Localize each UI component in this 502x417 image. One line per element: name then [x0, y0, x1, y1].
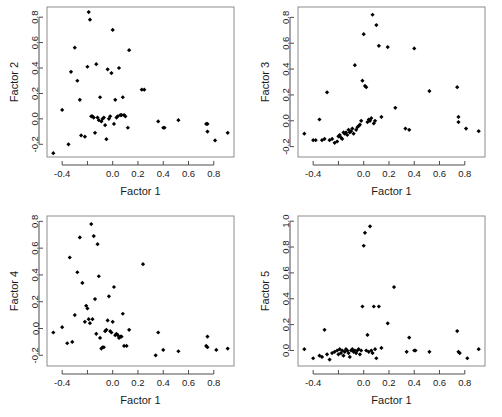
plot-factor2: -0.20.00.20.40.60.8-0.40.00.20.40.60.8Fa…: [0, 0, 251, 208]
x-axis-title: Factor 1: [371, 394, 411, 406]
panel-factor5: 0.00.20.40.60.81.0-0.40.00.20.40.60.8Fac…: [251, 209, 502, 417]
x-tick-label: 0.8: [458, 377, 471, 388]
x-tick-label: 0.8: [207, 377, 220, 388]
y-axis-title: Factor 2: [8, 62, 20, 102]
y-tick-label: 0.0: [281, 344, 292, 357]
y-tick-label: 0.0: [281, 114, 292, 127]
plot-area-factor3: -0.20.00.20.40.60.8-0.40.00.20.40.60.8Fa…: [259, 7, 485, 197]
plot-factor5: 0.00.20.40.60.81.0-0.40.00.20.40.60.8Fac…: [251, 209, 502, 417]
x-tick-label: 0.8: [458, 168, 471, 179]
y-tick-label: 0.4: [281, 292, 292, 305]
y-tick-label: -0.2: [30, 347, 41, 363]
x-tick-label: 0.4: [408, 377, 421, 388]
y-tick-label: 0.6: [281, 37, 292, 50]
x-tick-label: 0.6: [433, 168, 446, 179]
panel-factor2: -0.20.00.20.40.60.8-0.40.00.20.40.60.8Fa…: [0, 0, 251, 208]
x-tick-label: 0.2: [382, 168, 395, 179]
x-tick-label: 0.0: [106, 168, 119, 179]
x-tick-label: 0.2: [382, 377, 395, 388]
x-tick-label: 0.8: [207, 168, 220, 179]
y-axis-title: Factor 5: [259, 271, 271, 311]
x-tick-label: -0.4: [305, 168, 321, 179]
y-tick-label: 0.0: [30, 112, 41, 125]
x-tick-label: -0.4: [54, 168, 70, 179]
x-tick-label: 0.6: [182, 168, 195, 179]
x-tick-label: 0.0: [357, 168, 370, 179]
y-tick-label: 0.4: [281, 62, 292, 75]
x-axis-title: Factor 1: [371, 185, 411, 197]
x-tick-label: 0.6: [433, 377, 446, 388]
x-tick-label: -0.4: [305, 377, 321, 388]
y-tick-label: 0.6: [30, 36, 41, 49]
x-tick-label: 0.0: [357, 377, 370, 388]
y-tick-label: 0.6: [30, 242, 41, 255]
x-axis-title: Factor 1: [120, 185, 160, 197]
y-tick-label: 0.0: [30, 322, 41, 335]
plot-frame: [47, 7, 234, 157]
x-tick-label: -0.4: [54, 377, 70, 388]
plot-factor3: -0.20.00.20.40.60.8-0.40.00.20.40.60.8Fa…: [251, 0, 502, 208]
plot-area-factor4: -0.20.00.20.40.60.8-0.40.00.20.40.60.8Fa…: [8, 215, 234, 406]
y-tick-label: 0.8: [281, 240, 292, 253]
y-tick-label: 0.2: [281, 318, 292, 331]
y-tick-label: 1.0: [281, 215, 292, 228]
y-tick-label: 0.6: [281, 266, 292, 279]
plot-frame: [298, 216, 485, 366]
x-tick-label: 0.0: [106, 377, 119, 388]
plot-area-factor5: 0.00.20.40.60.81.0-0.40.00.20.40.60.8Fac…: [259, 215, 485, 406]
y-tick-label: 0.8: [30, 215, 41, 228]
y-tick-label: -0.2: [281, 138, 292, 154]
y-tick-label: 0.2: [281, 88, 292, 101]
panel-factor3: -0.20.00.20.40.60.8-0.40.00.20.40.60.8Fa…: [251, 0, 502, 208]
y-tick-label: -0.2: [30, 136, 41, 152]
x-tick-label: 0.4: [157, 377, 170, 388]
scatter-plot-matrix: -0.20.00.20.40.60.8-0.40.00.20.40.60.8Fa…: [0, 0, 502, 417]
y-axis-title: Factor 4: [8, 271, 20, 311]
plot-area-factor2: -0.20.00.20.40.60.8-0.40.00.20.40.60.8Fa…: [8, 7, 234, 197]
y-axis-title: Factor 3: [259, 62, 271, 102]
x-tick-label: 0.4: [408, 168, 421, 179]
plot-frame: [47, 216, 234, 366]
plot-frame: [298, 7, 485, 157]
y-tick-label: 0.8: [30, 11, 41, 24]
x-tick-label: 0.2: [131, 168, 144, 179]
x-axis-title: Factor 1: [120, 394, 160, 406]
y-tick-label: 0.4: [30, 61, 41, 74]
y-tick-label: 0.8: [281, 11, 292, 24]
y-tick-label: 0.4: [30, 268, 41, 281]
y-tick-label: 0.2: [30, 87, 41, 100]
x-tick-label: 0.2: [131, 377, 144, 388]
x-tick-label: 0.6: [182, 377, 195, 388]
x-tick-label: 0.4: [157, 168, 170, 179]
plot-factor4: -0.20.00.20.40.60.8-0.40.00.20.40.60.8Fa…: [0, 209, 251, 417]
panel-factor4: -0.20.00.20.40.60.8-0.40.00.20.40.60.8Fa…: [0, 209, 251, 417]
y-tick-label: 0.2: [30, 295, 41, 308]
